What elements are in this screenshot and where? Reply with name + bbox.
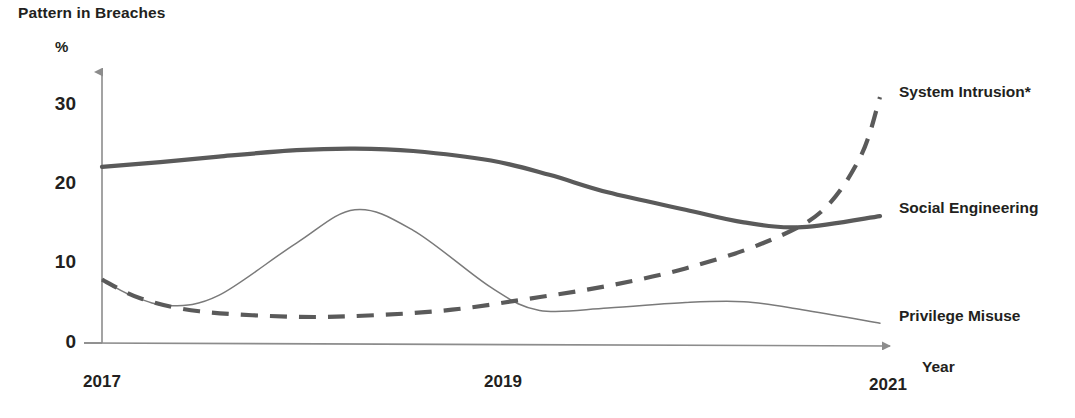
series-line-system-intrusion (102, 97, 880, 317)
plot-area (0, 0, 1075, 418)
x-axis-line (84, 343, 890, 346)
chart-page: Pattern in Breaches % Year 30 20 10 0 20… (0, 0, 1075, 418)
series-line-social-engineering (102, 149, 880, 228)
